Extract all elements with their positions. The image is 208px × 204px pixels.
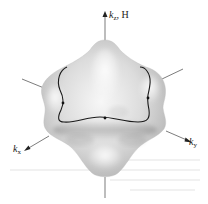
kx-subscript: x bbox=[17, 148, 21, 156]
kx-arrowhead-icon bbox=[24, 146, 31, 152]
ky-subscript: y bbox=[193, 141, 197, 149]
kz-suffix: , H bbox=[117, 9, 129, 20]
orbit-marker-right bbox=[147, 97, 150, 100]
kz-axis-label: kz, H bbox=[109, 9, 129, 22]
ky-axis-label: ky bbox=[189, 136, 197, 149]
right-axis-stub bbox=[162, 69, 183, 79]
surface-diagram bbox=[0, 0, 208, 204]
kx-axis-label: kx bbox=[13, 143, 21, 156]
fermi-surface-figure: kz, H kx ky bbox=[0, 0, 208, 204]
kz-arrowhead-icon bbox=[103, 11, 108, 17]
kx-axis-line bbox=[27, 136, 49, 149]
orbit-marker-left bbox=[62, 102, 65, 105]
orbit-marker-bottom bbox=[104, 117, 107, 120]
energy-surface bbox=[41, 40, 165, 177]
left-axis-stub bbox=[22, 79, 44, 88]
